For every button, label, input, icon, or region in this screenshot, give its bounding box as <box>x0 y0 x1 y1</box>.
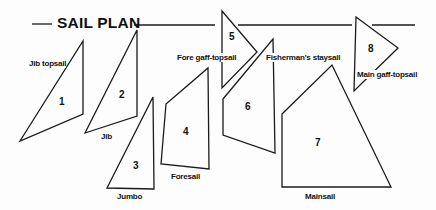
sail-5-label: Fore gaff-topsail <box>177 53 236 62</box>
diagram-title: SAIL PLAN <box>57 14 140 32</box>
sail-7-label: Mainsail <box>305 192 335 201</box>
sail-2-label: Jib <box>101 132 112 141</box>
sail-5-number: 5 <box>229 31 235 42</box>
sail-4-number: 4 <box>183 126 189 137</box>
sail-1-shape <box>20 41 83 141</box>
sail-5-shape <box>222 11 257 88</box>
sail-3-number: 3 <box>133 160 139 171</box>
sail-4-label: Foresail <box>171 172 200 181</box>
sail-7-shape <box>282 65 391 187</box>
sail-3-shape <box>107 97 154 189</box>
sail-1-number: 1 <box>59 96 65 107</box>
sail-4-shape <box>161 68 209 169</box>
sail-2-number: 2 <box>119 89 125 100</box>
sail-3-label: Jumbo <box>117 192 142 201</box>
sail-plan-diagram: SAIL PLAN 1 2 3 4 5 6 7 8 Jib topsail Ji… <box>0 0 436 210</box>
sail-1-label: Jib topsail <box>29 59 66 68</box>
sail-7-number: 7 <box>315 137 321 148</box>
sail-8-number: 8 <box>368 43 374 54</box>
sail-8-shape <box>354 17 398 91</box>
sail-8-label: Main gaff-topsail <box>357 70 417 79</box>
sail-6-label: Fisherman's staysail <box>266 53 340 62</box>
sail-2-shape <box>85 30 137 133</box>
sail-6-number: 6 <box>245 101 251 112</box>
